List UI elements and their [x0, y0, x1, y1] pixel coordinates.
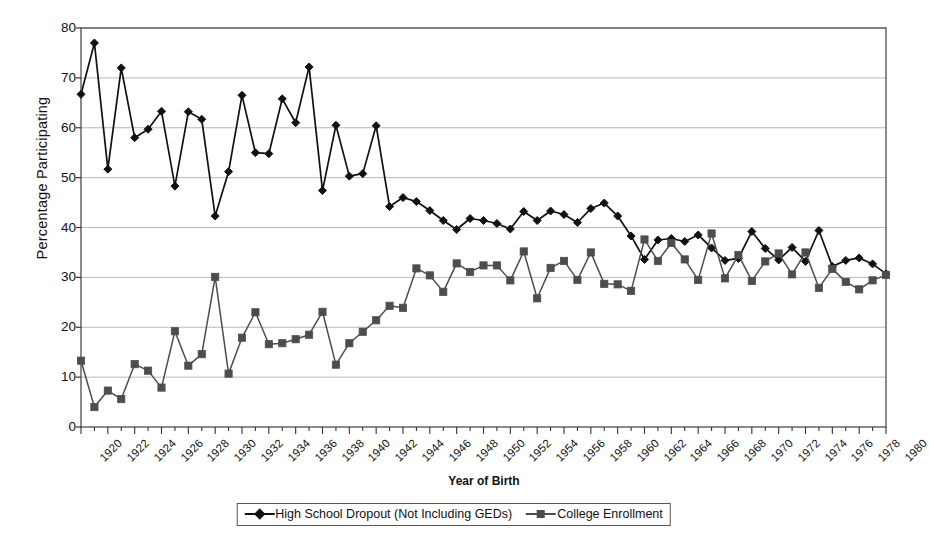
x-axis-title: Year of Birth	[81, 474, 887, 488]
diamond-marker-icon	[244, 508, 274, 520]
legend-label-college: College Enrollment	[557, 507, 663, 521]
legend-item-dropout: High School Dropout (Not Including GEDs)	[244, 507, 512, 521]
legend-label-dropout: High School Dropout (Not Including GEDs)	[275, 507, 512, 521]
legend-item-college: College Enrollment	[526, 507, 663, 521]
square-marker-icon	[526, 508, 556, 520]
chart-legend: High School Dropout (Not Including GEDs)…	[236, 503, 671, 526]
